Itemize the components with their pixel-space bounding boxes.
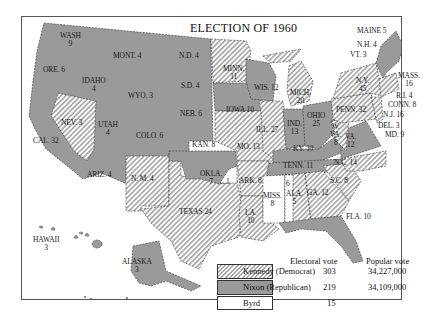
label-cal: CAL. 32: [33, 137, 59, 145]
label-okla: OKLA.7: [200, 170, 222, 186]
label-wash: WASH9: [60, 32, 81, 48]
label-md: MD. 9: [385, 131, 404, 139]
label-wis: WIS. 12: [254, 84, 278, 92]
legend-byrd-name: Byrd: [243, 298, 260, 308]
label-nh: N.H. 4: [357, 41, 377, 49]
label-tenn: TENN. 11: [283, 162, 313, 170]
legend-byrd-electoral: 15: [327, 298, 336, 308]
legend-kennedy-popular: 34,227,000: [368, 266, 406, 276]
label-neb: NEB. 6: [180, 110, 202, 118]
label-vt: VT. 3: [350, 51, 366, 59]
label-ohio: OHIO25: [307, 112, 325, 128]
state-wis: [246, 59, 276, 101]
legend-nixon-electoral: 219: [323, 282, 336, 292]
label-wva: W.VA.8: [330, 123, 341, 147]
legend-popular-header: Popular vote: [366, 256, 409, 266]
label-nm: N. M. 4: [131, 175, 154, 183]
label-fla: FLA. 10: [346, 213, 371, 221]
label-utah: UTAH4: [98, 121, 118, 137]
label-maine: MAINE 5: [357, 27, 387, 35]
label-idaho: IDAHO4: [82, 77, 106, 93]
label-penn: PENN. 32: [336, 106, 366, 114]
map-title: ELECTION OF 1960: [190, 21, 297, 36]
label-nj: N.J. 16: [383, 111, 404, 119]
label-ala: ALA.5: [286, 190, 303, 206]
legend-nixon-popular: 34,109,000: [368, 282, 406, 292]
label-sd: S.D. 4: [181, 82, 199, 90]
label-mo: MO. 13: [237, 143, 260, 151]
legend-kennedy-electoral: 303: [323, 266, 336, 276]
label-sc: S.C. 8: [330, 177, 348, 185]
label-alaska: ALASKA3: [122, 258, 152, 274]
label-la: LA.10: [245, 209, 257, 225]
label-ariz: ARIZ. 4: [87, 171, 111, 179]
label-miss: MISS.8: [263, 192, 282, 208]
label-nev: NEV. 3: [61, 119, 82, 127]
legend-kennedy-name: Kennedy (Democrat): [243, 266, 315, 276]
label-conn: CONN. 8: [388, 101, 416, 109]
label-mass: MASS.16: [398, 72, 420, 88]
label-mont: MONT. 4: [113, 52, 141, 60]
label-iowa: IOWA 10: [226, 106, 254, 114]
label-kan: KAN. 8: [192, 141, 215, 149]
label-wyo: WYO. 3: [128, 92, 153, 100]
label-minn: MINN.11: [223, 65, 244, 81]
label-nd: N.D. 4: [179, 52, 199, 60]
label-ky: KY. 10: [293, 145, 314, 153]
label-ala-byrd: 6: [286, 180, 290, 188]
label-ny: N.Y.45: [356, 77, 369, 93]
label-colo: COLO. 6: [136, 132, 163, 140]
label-ind: IND.13: [287, 120, 302, 136]
label-mich: MICH.20: [290, 89, 311, 105]
state-nm: [126, 156, 169, 211]
label-hawaii: HAWAII3: [33, 236, 59, 252]
label-okla-byrd: 1: [226, 178, 230, 186]
label-del: DEL. 3: [378, 122, 399, 130]
label-texas: TEXAS 24: [179, 208, 212, 216]
label-ri: R.I. 4: [396, 92, 412, 100]
label-ore: ORE. 6: [43, 66, 65, 74]
label-nc: N.C. 14: [334, 159, 357, 167]
label-ill: ILL. 27: [256, 126, 278, 134]
label-va: VA.12: [345, 133, 356, 149]
label-ark: ARK. 8: [239, 177, 262, 185]
legend-electoral-header: Electoral vote: [290, 256, 337, 266]
label-ga: GA. 12: [307, 189, 328, 197]
legend-nixon-name: Nixon (Republican): [243, 282, 311, 292]
